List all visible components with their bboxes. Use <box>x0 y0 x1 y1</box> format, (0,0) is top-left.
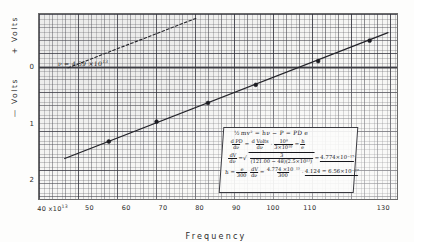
threshold-symbol: ν <box>58 60 63 67</box>
data-point-0-4 <box>316 59 320 63</box>
threshold-exponent: 13 <box>102 59 109 64</box>
eq3-frac-1: dV dν <box>228 153 238 164</box>
data-point-0-2 <box>206 101 210 105</box>
eq1-half: ½ <box>234 131 240 137</box>
x-tick-label-60: 60 <box>122 204 131 212</box>
eq4-frac-3: 4.774 ×10⁻¹⁵ 300 <box>265 167 301 178</box>
threshold-times: ×10 <box>88 60 102 67</box>
equation-derivation-box: ½ mv² = hν − P = PD e d PD dν = d Volts … <box>219 127 359 193</box>
x-tick-text: 40 x10 <box>37 205 61 213</box>
x-tick-text: 80 <box>195 204 204 212</box>
eq2-frac-4: h e <box>300 139 306 150</box>
eq3-result: 4.774×10⁻¹⁵ <box>320 155 354 162</box>
eq3-inner-den: (121.00 − 48)(2.5×10¹³) <box>249 158 313 164</box>
eq1-body: mv² = hν − P = PD e <box>241 131 309 137</box>
eq4-frac-1: e 300 <box>236 167 248 178</box>
eq2-dot: · <box>271 142 273 147</box>
y-tick-label-1: 1 <box>20 120 34 128</box>
eq3-frac1-den: dν <box>228 158 237 164</box>
x-tick-text: 90 <box>232 204 241 212</box>
eq4-frac2-den: dν <box>250 172 259 178</box>
page-right-edge <box>414 0 432 250</box>
y-axis-label-negative: — Volts <box>10 78 19 117</box>
x-tick-label-50: 50 <box>85 204 94 212</box>
eq2-frac1-den: dν <box>232 144 241 150</box>
eq2-equals-2: = <box>294 142 299 147</box>
eq2-frac-2: d Volts dν <box>250 139 270 150</box>
eq4-frac3-den: 300 <box>277 172 289 178</box>
eq2-equals-1: = <box>244 142 249 147</box>
eq3-radicand: 3 (121.00 − 48)(2.5×10¹³) <box>247 152 315 164</box>
x-tick-label-40: 40 x1013 <box>37 204 68 213</box>
x-axis-label: Frequency <box>0 232 432 241</box>
eq4-lead: h = <box>225 170 235 175</box>
y-tick-label-0: 0 <box>20 63 34 71</box>
data-point-0-0 <box>107 140 111 144</box>
eq3-inner-frac: 3 (121.00 − 48)(2.5×10¹³) <box>249 153 313 164</box>
x-tick-label-110: 110 <box>303 204 316 212</box>
x-tick-text: 110 <box>303 204 316 212</box>
eq2-frac4-den: e <box>300 144 305 150</box>
eq2-frac2-den: dν <box>255 144 264 150</box>
eq2-frac3-den: 3×10¹⁰ <box>273 144 293 150</box>
y-tick-label-2: 2 <box>20 176 34 184</box>
eq2-frac-3: 10⁸ 3×10¹⁰ <box>273 139 294 150</box>
x-tick-text: 100 <box>266 204 279 212</box>
x-tick-text: 50 <box>85 204 94 212</box>
x-tick-label-90: 90 <box>232 204 241 212</box>
x-tick-exponent: 13 <box>62 204 68 209</box>
eq4-tail: 4.124 = 6.56×10⁻²⁷ <box>304 169 358 176</box>
data-point-0-3 <box>254 83 258 87</box>
equation-line-2: d PD dν = d Volts dν · 10⁸ 3×10¹⁰ = h e <box>228 139 354 150</box>
threshold-equals: = <box>64 60 70 67</box>
x-tick-label-80: 80 <box>195 204 204 212</box>
x-tick-label-70: 70 <box>158 204 167 212</box>
equation-line-3: dV dν = √ 3 (121.00 − 48)(2.5×10¹³) = 4.… <box>227 152 353 164</box>
eq3-equals-2: = <box>314 156 319 161</box>
eq4-frac-2: dV dν <box>250 167 260 178</box>
threshold-value: 4.39 <box>71 60 86 67</box>
data-point-0-5 <box>368 39 372 43</box>
eq4-frac1-den: 300 <box>236 172 248 178</box>
x-tick-label-100: 100 <box>266 204 279 212</box>
page-bottom-edge <box>0 242 432 250</box>
x-tick-text: 130 <box>377 204 390 212</box>
y-axis-label-positive: + Volts <box>10 16 19 54</box>
eq3-radical: √ <box>243 155 247 161</box>
x-tick-text: 70 <box>158 204 167 212</box>
data-point-0-1 <box>155 120 159 124</box>
eq4-equals-1: = <box>260 170 265 175</box>
eq2-frac-1: d PD dν <box>229 139 244 150</box>
threshold-frequency-annotation: ν = 4.39 ×1013 <box>58 59 109 67</box>
equation-line-1: ½ mv² = hν − P = PD e <box>234 131 354 137</box>
x-tick-label-130: 130 <box>377 204 390 212</box>
equation-line-4: h = e 300 dV dν = 4.774 ×10⁻¹⁵ 300 · 4.1… <box>225 167 352 178</box>
graph-page: + Volts — Volts 012 40 x1013506070809010… <box>0 0 432 250</box>
x-tick-text: 60 <box>122 204 131 212</box>
